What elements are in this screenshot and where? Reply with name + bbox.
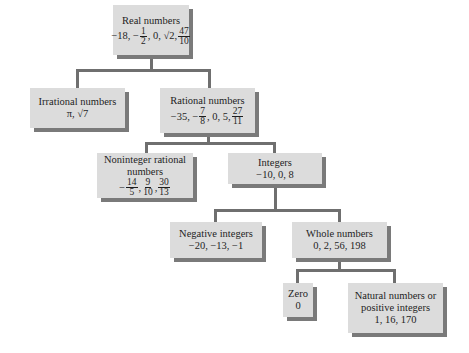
node-rational-values: −35, − 78 , 0, 5, 2711 <box>171 107 244 126</box>
node-natural-label-2: positive integers <box>361 302 430 314</box>
node-negative-integers: Negative integers −20, −13, −1 <box>170 222 262 258</box>
connector-integers-bar <box>214 209 341 212</box>
node-natural-values: 1, 16, 170 <box>375 314 417 326</box>
connector-to-integers <box>273 142 276 153</box>
value-text: , <box>155 182 158 194</box>
denominator: 13 <box>158 188 170 197</box>
value-text: , 0, √2, <box>148 30 177 42</box>
fraction: 78 <box>199 107 206 126</box>
connector-to-irrational <box>76 69 79 88</box>
node-real-label: Real numbers <box>122 15 180 27</box>
value-text: −18, − <box>111 30 139 42</box>
connector-real-bar <box>76 69 211 72</box>
node-whole-values: 0, 2, 56, 198 <box>313 240 366 252</box>
node-integers: Integers −10, 0, 8 <box>228 153 322 184</box>
node-real-numbers: Real numbers −18, − 12 , 0, √2, 4710 <box>113 5 189 55</box>
denominator: 2 <box>140 37 147 46</box>
connector-to-negative <box>214 209 217 222</box>
value-text: − <box>119 182 125 194</box>
connector-to-rational <box>208 69 211 88</box>
node-zero-label: Zero <box>288 288 308 300</box>
node-whole-numbers: Whole numbers 0, 2, 56, 198 <box>292 222 387 258</box>
connector-whole-bar <box>296 269 396 272</box>
fraction: 4710 <box>178 27 190 46</box>
node-noninteger-label-1: Noninteger rational <box>104 154 186 166</box>
connector-to-noninteger <box>145 142 148 153</box>
fraction: 145 <box>126 178 138 197</box>
node-real-values: −18, − 12 , 0, √2, 4710 <box>111 27 190 46</box>
node-noninteger-rational: Noninteger rational numbers − 145 , 910 … <box>97 153 193 198</box>
denominator: 10 <box>142 188 154 197</box>
connector-rational-bar <box>145 142 276 145</box>
denominator: 10 <box>178 37 190 46</box>
connector-to-natural <box>393 269 396 283</box>
denominator: 5 <box>128 188 135 197</box>
node-negative-values: −20, −13, −1 <box>189 240 244 252</box>
value-text: , 0, 5, <box>207 111 231 123</box>
value-text: −35, − <box>171 111 199 123</box>
node-irrational-values: π, √7 <box>67 108 89 120</box>
fraction: 12 <box>140 27 147 46</box>
fraction: 910 <box>142 178 154 197</box>
numerator: 1 <box>140 27 147 37</box>
node-natural-label-1: Natural numbers or <box>355 290 437 302</box>
denominator: 11 <box>232 117 243 126</box>
node-integers-label: Integers <box>258 157 292 169</box>
node-zero: Zero 0 <box>283 283 313 317</box>
connector-integers-stem <box>274 187 277 211</box>
node-rational-numbers: Rational numbers −35, − 78 , 0, 5, 2711 <box>160 88 255 133</box>
node-irrational-numbers: Irrational numbers π, √7 <box>30 88 125 128</box>
denominator: 8 <box>199 117 206 126</box>
node-whole-label: Whole numbers <box>306 228 373 240</box>
node-natural-numbers: Natural numbers or positive integers 1, … <box>348 283 443 333</box>
fraction: 3013 <box>158 178 170 197</box>
node-noninteger-values: − 145 , 910 , 3013 <box>119 178 171 197</box>
numerator: 47 <box>178 27 190 37</box>
connector-to-whole <box>338 209 341 222</box>
node-zero-values: 0 <box>295 300 300 312</box>
value-text: , <box>139 182 142 194</box>
node-integers-values: −10, 0, 8 <box>256 169 293 181</box>
node-irrational-label: Irrational numbers <box>39 96 117 108</box>
connector-to-zero <box>296 269 299 283</box>
node-negative-label: Negative integers <box>179 228 253 240</box>
fraction: 2711 <box>232 107 244 126</box>
